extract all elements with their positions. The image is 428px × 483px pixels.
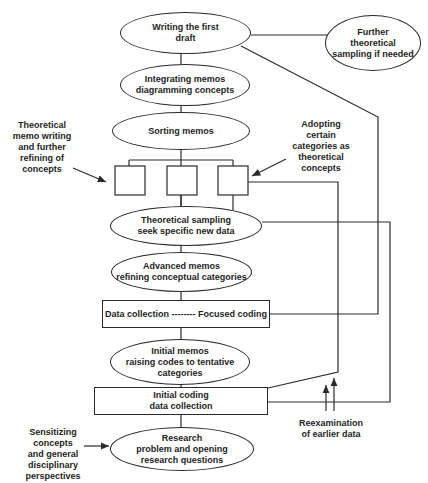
- initial-memos-node: Initial memosraising codes to tentativec…: [110, 339, 250, 385]
- annotation-text: and general: [10, 449, 96, 460]
- sensitizing-concepts-annotation: Sensitizing concepts and general discipl…: [10, 427, 96, 482]
- node-text: Data collection -------- Focused coding: [105, 309, 267, 320]
- node-text: seek specific new data: [137, 226, 234, 237]
- annotation-text: of earlier data: [296, 429, 366, 440]
- research-problem-node: Researchproblem and openingresearch ques…: [110, 427, 254, 471]
- annotation-text: concepts: [283, 163, 359, 174]
- sorting-memos-node: Sorting memos: [112, 112, 250, 150]
- advanced-memos-node: Advanced memosrefining conceptual catego…: [111, 252, 252, 292]
- annotation-text: concepts: [6, 164, 78, 175]
- node-text: data collection: [149, 401, 212, 412]
- node-text: draft: [152, 33, 218, 44]
- theoretical-sampling-node: Theoretical samplingseek specific new da…: [110, 206, 262, 246]
- data-collection-focused-coding-node: Data collection -------- Focused coding: [102, 300, 270, 328]
- annotation-text: and further: [6, 142, 78, 153]
- annotation-text: disciplinary: [10, 460, 96, 471]
- annotation-text: memo writing: [6, 131, 78, 142]
- node-text: refining conceptual categories: [116, 272, 247, 283]
- integrating-memos-node: Integrating memosdiagramming concepts: [120, 64, 250, 106]
- further-sampling-node: Furthertheoreticalsampling if needed: [325, 15, 421, 71]
- node-text: Research: [136, 433, 228, 444]
- node-text: problem and opening: [136, 444, 228, 455]
- annotation-text: Sensitizing concepts: [10, 427, 96, 449]
- node-text: sampling if needed: [332, 49, 414, 60]
- reexamination-annotation: Reexamination of earlier data: [296, 418, 366, 440]
- node-text: Initial coding: [149, 390, 212, 401]
- theoretical-memo-writing-annotation: Theoretical memo writing and further ref…: [6, 120, 78, 175]
- node-text: Integrating memos: [136, 74, 235, 85]
- annotation-text: categories as: [283, 141, 359, 152]
- node-text: theoretical: [332, 38, 414, 49]
- writing-first-draft-node: Writing the firstdraft: [120, 12, 251, 54]
- annotation-text: Adopting: [283, 119, 359, 130]
- annotation-text: refining of: [6, 153, 78, 164]
- initial-coding-node: Initial codingdata collection: [94, 387, 268, 415]
- node-text: research questions: [136, 455, 228, 466]
- node-text: Theoretical sampling: [137, 215, 234, 226]
- node-text: Advanced memos: [116, 261, 247, 272]
- node-text: categories: [126, 368, 235, 379]
- node-text: raising codes to tentative: [126, 357, 235, 368]
- node-text: diagramming concepts: [136, 85, 235, 96]
- annotation-text: perspectives: [10, 471, 96, 482]
- node-text: Initial memos: [126, 346, 235, 357]
- adopting-categories-annotation: Adopting certain categories as theoretic…: [283, 119, 359, 174]
- annotation-text: certain: [283, 130, 359, 141]
- node-text: Writing the first: [152, 22, 218, 33]
- annotation-text: Reexamination: [296, 418, 366, 429]
- annotation-text: theoretical: [283, 152, 359, 163]
- annotation-text: Theoretical: [6, 120, 78, 131]
- node-text: Further: [332, 27, 414, 38]
- node-text: Sorting memos: [148, 126, 214, 137]
